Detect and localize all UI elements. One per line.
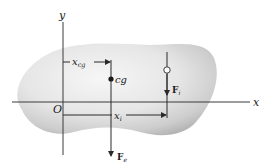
cg-point <box>108 76 113 81</box>
y-axis-label: y <box>58 9 66 22</box>
cg-label: cg <box>115 74 127 85</box>
force-fe-label: Fe <box>117 152 127 163</box>
element-point <box>164 67 170 73</box>
origin-label: O <box>53 103 62 116</box>
x-axis-label: x <box>253 96 260 109</box>
rigid-body-blob <box>17 44 216 136</box>
cg-diagram: x y O cg Fe xcg Fi xi <box>0 0 272 165</box>
